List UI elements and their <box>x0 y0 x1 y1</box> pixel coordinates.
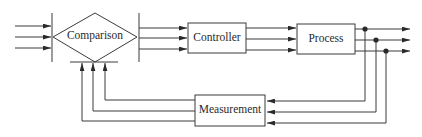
diagram-lines <box>0 0 422 137</box>
measurement-to-comparison-arrows <box>82 63 195 121</box>
feedback-control-diagram: Comparison Controller Process Measuremen… <box>0 0 422 137</box>
junction-dot <box>362 26 367 31</box>
measurement-label: Measurement <box>195 103 265 115</box>
comparison-to-controller-arrows <box>139 28 187 49</box>
junction-dot <box>373 37 378 42</box>
comparison-label: Comparison <box>53 29 137 41</box>
controller-label: Controller <box>188 31 246 43</box>
controller-to-process-arrows <box>246 28 296 50</box>
input-arrows <box>15 26 51 48</box>
output-arrows <box>355 29 410 51</box>
junction-dot <box>383 48 388 53</box>
process-label: Process <box>297 32 355 44</box>
